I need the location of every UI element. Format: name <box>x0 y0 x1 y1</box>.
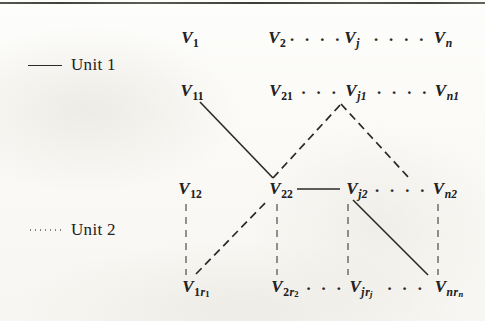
node-subscript: 2 <box>283 286 289 298</box>
node-v21: V21 <box>269 81 292 102</box>
node-base-letter: V <box>178 179 190 198</box>
node-subscript: 2 <box>280 36 286 48</box>
node-vnrn: Vnrn <box>435 277 464 299</box>
horizontal-ellipsis-row-level-1-1: · · · · <box>373 30 427 50</box>
node-subscript-r: r <box>454 286 459 298</box>
node-vj: Vj <box>344 28 359 49</box>
node-subscript: 12 <box>190 187 202 199</box>
node-subscript-r-index: 2 <box>294 289 298 299</box>
node-subscript-r-index: 1 <box>205 289 209 299</box>
node-base-letter: V <box>269 81 281 100</box>
node-subscript-r-index: j <box>370 289 373 299</box>
node-subscript: 1 <box>193 36 199 48</box>
dotted-line-swatch <box>28 229 62 231</box>
vdots-col-1 <box>185 201 188 275</box>
legend-item-unit-2-label: Unit 2 <box>71 220 116 240</box>
node-subscript: 21 <box>281 89 293 101</box>
node-base-letter: V <box>434 28 446 47</box>
node-subscript: j <box>356 36 359 48</box>
node-base-letter: V <box>349 277 361 296</box>
node-base-letter: V <box>345 81 357 100</box>
solid-line-swatch <box>28 65 62 66</box>
node-v11: V11 <box>181 81 204 102</box>
node-subscript: n <box>446 36 453 48</box>
node-base-letter: V <box>268 28 280 47</box>
node-base-letter: V <box>182 277 194 296</box>
vdots-col-2 <box>276 201 279 275</box>
node-subscript: 11 <box>193 89 204 101</box>
horizontal-ellipsis-row-level-2-1: · · · · <box>376 83 430 103</box>
node-base-letter: V <box>271 277 283 296</box>
node-v12: V12 <box>178 179 201 200</box>
edge-V1r1-to-V22 <box>196 200 268 274</box>
node-base-letter: V <box>346 179 358 198</box>
node-subscript: n2 <box>445 187 458 199</box>
edge-V11-to-V22 <box>200 102 273 178</box>
node-vjrj: Vjrj <box>349 277 372 299</box>
node-subscript: n1 <box>447 89 460 101</box>
node-subscript-r: r <box>365 286 370 298</box>
horizontal-ellipsis-row-level-1-0: · · · · <box>289 30 343 50</box>
node-subscript-r-index: n <box>458 289 463 299</box>
node-v1r1: V1r1 <box>182 277 209 299</box>
node-subscript: 1 <box>194 286 200 298</box>
node-v2: V2 <box>268 28 286 49</box>
edge-Vj1-to-Vn2 <box>341 104 409 178</box>
node-base-letter: V <box>435 277 447 296</box>
node-base-letter: V <box>433 179 445 198</box>
node-vn: Vn <box>434 28 453 49</box>
legend-item-unit-1: Unit 1 <box>28 55 116 75</box>
node-subscript: n <box>447 286 454 298</box>
node-base-letter: V <box>344 28 356 47</box>
horizontal-ellipsis-row-level-3-0: · · · · <box>374 181 428 201</box>
vdots-col-j <box>347 201 350 275</box>
node-base-letter: V <box>181 81 193 100</box>
legend-item-unit-2: Unit 2 <box>28 220 116 240</box>
horizontal-ellipsis-row-level-r-0: · · · <box>306 279 345 299</box>
vdots-col-n <box>437 201 440 275</box>
legend-item-unit-1-label: Unit 1 <box>71 55 116 75</box>
horizontal-ellipsis-row-level-2-0: · · · <box>301 83 340 103</box>
node-v22: V22 <box>269 179 292 200</box>
node-subscript: j <box>361 286 364 298</box>
node-v1: V1 <box>181 28 199 49</box>
node-base-letter: V <box>435 81 447 100</box>
node-vn1: Vn1 <box>435 81 459 102</box>
node-vn2: Vn2 <box>433 179 457 200</box>
node-v2r2: V2r2 <box>271 277 298 299</box>
node-subscript: j2 <box>358 187 367 199</box>
edge-V22-to-Vj1 <box>273 104 341 178</box>
top-horizontal-rule <box>0 2 485 4</box>
node-base-letter: V <box>181 28 193 47</box>
node-vj2: Vj2 <box>346 179 367 200</box>
node-vj1: Vj1 <box>345 81 366 102</box>
node-subscript: j1 <box>357 89 366 101</box>
horizontal-ellipsis-row-level-r-1: · · · <box>387 279 426 299</box>
node-subscript: 22 <box>281 187 293 199</box>
figure-canvas: V1V2VjVn· · · ·· · · ·V11V21Vj1Vn1· · ··… <box>0 0 485 321</box>
edge-Vj2-to-Vnrn <box>353 200 428 275</box>
node-base-letter: V <box>269 179 281 198</box>
